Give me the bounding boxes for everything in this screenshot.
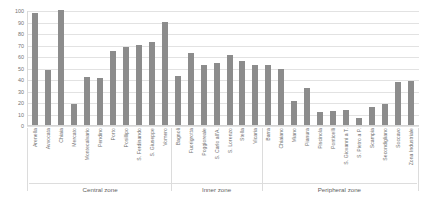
group-frame-left bbox=[27, 128, 28, 191]
category-label: Fuorigrotta bbox=[188, 128, 194, 153]
category-label: S. Giuseppe bbox=[149, 128, 155, 157]
bar[interactable] bbox=[58, 10, 64, 125]
bar-slot bbox=[171, 11, 184, 125]
category-label-slot: Pianura bbox=[301, 127, 314, 183]
category-label-slot: Zona Industriale bbox=[404, 127, 417, 183]
category-label-slot: S. Pietro a P. bbox=[352, 127, 365, 183]
category-label-slot: Miano bbox=[288, 127, 301, 183]
bar-slot bbox=[55, 11, 68, 125]
bar[interactable] bbox=[369, 107, 375, 125]
category-label-slot: S. Giuseppe bbox=[145, 127, 158, 183]
category-label: Vomero bbox=[162, 128, 168, 146]
bar[interactable] bbox=[71, 104, 77, 125]
bar-slot bbox=[365, 11, 378, 125]
bar[interactable] bbox=[278, 69, 284, 125]
y-axis-tick-label: 100 bbox=[0, 8, 24, 14]
bar-slot bbox=[94, 11, 107, 125]
category-label-slot: Mercato bbox=[68, 127, 81, 183]
bar-slot bbox=[184, 11, 197, 125]
bar[interactable] bbox=[201, 65, 207, 125]
bar[interactable] bbox=[227, 55, 233, 125]
category-label-slot: S. Ferdinando bbox=[133, 127, 146, 183]
category-label-slot: Arenella bbox=[29, 127, 42, 183]
y-axis-tick-label: 90 bbox=[0, 20, 24, 26]
category-label-slot: Poggioreale bbox=[197, 127, 210, 183]
category-label: Ponticelli bbox=[330, 128, 336, 149]
bar[interactable] bbox=[265, 65, 271, 125]
y-axis-tick-label: 10 bbox=[0, 112, 24, 118]
category-label: Chiaiano bbox=[278, 128, 284, 149]
bar[interactable] bbox=[110, 51, 116, 125]
group-separator bbox=[262, 128, 263, 191]
category-label-slot: Ponticelli bbox=[327, 127, 340, 183]
y-axis-tick-label: 80 bbox=[0, 31, 24, 37]
category-label: Barra bbox=[265, 128, 271, 141]
bar[interactable] bbox=[408, 81, 414, 125]
bar[interactable] bbox=[239, 61, 245, 125]
bar[interactable] bbox=[382, 104, 388, 125]
category-label: S. Carlo all'A. bbox=[214, 128, 220, 159]
y-axis-tick-label: 50 bbox=[0, 66, 24, 72]
category-label: Soccavo bbox=[395, 128, 401, 148]
bar[interactable] bbox=[123, 47, 129, 125]
bar[interactable] bbox=[149, 42, 155, 125]
group-frame-right bbox=[418, 128, 419, 191]
group-separator bbox=[171, 128, 172, 191]
category-label-slot: S. Carlo all'A. bbox=[210, 127, 223, 183]
bar[interactable] bbox=[32, 13, 38, 125]
bar-slot bbox=[145, 11, 158, 125]
bar[interactable] bbox=[356, 118, 362, 125]
bar[interactable] bbox=[395, 82, 401, 125]
y-axis-tick-label: 60 bbox=[0, 54, 24, 60]
bar-series bbox=[27, 11, 419, 125]
bar[interactable] bbox=[317, 112, 323, 125]
bar[interactable] bbox=[45, 70, 51, 125]
bar[interactable] bbox=[188, 53, 194, 125]
group-label: Central zone bbox=[29, 186, 171, 193]
bar-slot bbox=[301, 11, 314, 125]
bar-slot bbox=[352, 11, 365, 125]
category-label: Chiaia bbox=[58, 128, 64, 143]
x-axis-category-labels: ArenellaAvvocataChiaiaMercatoMontecalvar… bbox=[27, 127, 419, 183]
bar[interactable] bbox=[97, 78, 103, 125]
category-label: S. Ferdinando bbox=[136, 128, 142, 161]
bar-slot bbox=[404, 11, 417, 125]
bar-slot bbox=[314, 11, 327, 125]
bar[interactable] bbox=[291, 101, 297, 125]
y-axis-tick-label: 70 bbox=[0, 43, 24, 49]
y-axis-tick-label: 30 bbox=[0, 89, 24, 95]
x-axis-line bbox=[27, 125, 419, 126]
category-label-slot: Secondigliano bbox=[378, 127, 391, 183]
category-label: Miano bbox=[291, 128, 297, 142]
bar[interactable] bbox=[304, 88, 310, 125]
category-label-slot: Chiaiano bbox=[275, 127, 288, 183]
bar[interactable] bbox=[136, 45, 142, 126]
plot-area bbox=[27, 11, 419, 126]
bar-slot bbox=[158, 11, 171, 125]
bar[interactable] bbox=[343, 110, 349, 125]
bar[interactable] bbox=[175, 76, 181, 125]
bar[interactable] bbox=[330, 111, 336, 125]
category-label: Avvocata bbox=[45, 128, 51, 149]
bar-slot bbox=[391, 11, 404, 125]
bar-slot bbox=[275, 11, 288, 125]
bar[interactable] bbox=[84, 77, 90, 125]
category-label-slot: Scampia bbox=[365, 127, 378, 183]
bar-slot bbox=[210, 11, 223, 125]
bar[interactable] bbox=[162, 22, 168, 126]
group-underline bbox=[262, 183, 417, 184]
bar-slot bbox=[262, 11, 275, 125]
category-label: S. Lorenzo bbox=[227, 128, 233, 153]
bar[interactable] bbox=[214, 63, 220, 125]
bar[interactable] bbox=[252, 65, 258, 125]
bar-slot bbox=[107, 11, 120, 125]
category-label: Piscinola bbox=[317, 128, 323, 149]
category-label: Montecalvario bbox=[84, 128, 90, 160]
category-label: Pianura bbox=[304, 128, 310, 146]
bar-slot bbox=[288, 11, 301, 125]
category-label: Mercato bbox=[71, 128, 77, 147]
category-label-slot: Porto bbox=[107, 127, 120, 183]
category-label: Poggioreale bbox=[201, 128, 207, 156]
category-label: Posillipo bbox=[123, 128, 129, 147]
category-label-slot: Soccavo bbox=[391, 127, 404, 183]
